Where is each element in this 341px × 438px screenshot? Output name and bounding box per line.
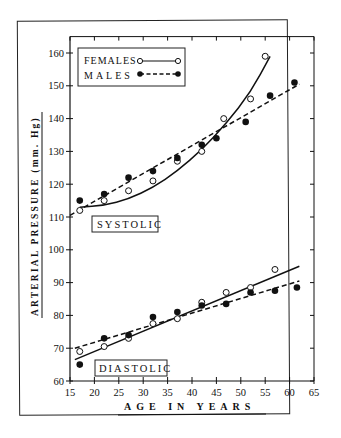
x-tick-label: 45 bbox=[211, 387, 222, 398]
x-tick-label: 20 bbox=[89, 387, 100, 398]
systolic-males-point bbox=[174, 155, 181, 162]
systolic-females-point bbox=[199, 148, 205, 154]
fit-lines bbox=[70, 56, 299, 359]
diastolic-males-point bbox=[198, 302, 205, 309]
diastolic-females-point bbox=[223, 289, 229, 295]
y-axis-title: ARTERIAL PRESSURE (mm. Hg) bbox=[30, 116, 41, 316]
diastolic-males-fit-line bbox=[75, 281, 299, 348]
diastolic-males-point bbox=[247, 289, 254, 296]
systolic-females-point bbox=[101, 198, 107, 204]
y-tick-label: 80 bbox=[54, 310, 65, 321]
legend-label-males: MALES bbox=[84, 70, 133, 81]
systolic-females-point bbox=[262, 53, 268, 59]
diastolic-females-point bbox=[174, 316, 180, 322]
y-tick-label: 140 bbox=[48, 113, 64, 124]
systolic-males-point bbox=[76, 197, 83, 204]
systolic-males-point bbox=[125, 174, 132, 181]
x-tick-label: 25 bbox=[114, 387, 125, 398]
y-tick-label: 100 bbox=[48, 244, 64, 255]
systolic-label: SYSTOLIC bbox=[92, 216, 163, 232]
y-tick-label: 70 bbox=[54, 343, 65, 354]
diastolic-males-point bbox=[174, 309, 181, 316]
diastolic-females-point bbox=[150, 321, 156, 327]
axes: 1520253035404550556065607080901001101201… bbox=[48, 37, 319, 398]
x-axis-title: AGE IN YEARS bbox=[124, 401, 255, 412]
legend-marker-males-left bbox=[137, 71, 143, 77]
x-tick-label: 15 bbox=[65, 387, 76, 398]
x-axis-title-underline bbox=[118, 414, 266, 415]
diastolic-females-point bbox=[77, 348, 83, 354]
diastolic-females-point bbox=[101, 344, 107, 350]
legend-label-females: FEMALES bbox=[84, 55, 137, 66]
diastolic-males-point bbox=[101, 335, 108, 342]
data-points bbox=[76, 53, 300, 368]
x-tick-label: 40 bbox=[187, 387, 198, 398]
systolic-males-point bbox=[150, 168, 157, 175]
systolic-females-point bbox=[126, 188, 132, 194]
y-tick-label: 110 bbox=[49, 212, 64, 223]
systolic-females-point bbox=[248, 96, 254, 102]
systolic-females-point bbox=[77, 207, 83, 213]
diastolic-males-point bbox=[150, 314, 157, 321]
y-tick-label: 90 bbox=[54, 277, 65, 288]
legend: FEMALES MALES bbox=[78, 48, 185, 86]
legend-marker-females-right bbox=[175, 58, 180, 63]
y-tick-label: 120 bbox=[48, 179, 64, 190]
chart: 1520253035404550556065607080901001101201… bbox=[0, 0, 341, 438]
systolic-males-point bbox=[291, 79, 298, 86]
y-tick-label: 150 bbox=[48, 80, 64, 91]
systolic-label-text: SYSTOLIC bbox=[97, 219, 163, 230]
y-tick-label: 130 bbox=[48, 146, 64, 157]
diastolic-label-text: DIASTOLIC bbox=[99, 363, 172, 374]
systolic-males-point bbox=[267, 92, 274, 99]
x-tick-label: 60 bbox=[284, 387, 295, 398]
legend-marker-females-left bbox=[137, 58, 142, 63]
y-tick-label: 60 bbox=[54, 376, 65, 387]
diastolic-males-point bbox=[125, 332, 132, 339]
systolic-males-point bbox=[213, 135, 220, 142]
systolic-females-point bbox=[150, 178, 156, 184]
x-tick-label: 50 bbox=[236, 387, 247, 398]
x-tick-label: 30 bbox=[138, 387, 149, 398]
x-tick-label: 55 bbox=[260, 387, 271, 398]
systolic-males-point bbox=[198, 142, 205, 149]
diastolic-males-point bbox=[223, 301, 230, 308]
diastolic-males-point bbox=[76, 361, 83, 368]
legend-marker-males-right bbox=[175, 71, 181, 77]
systolic-males-point bbox=[242, 119, 249, 126]
diastolic-males-point bbox=[294, 284, 301, 291]
diastolic-males-point bbox=[272, 288, 279, 295]
x-tick-label: 35 bbox=[162, 387, 173, 398]
systolic-males-point bbox=[101, 191, 108, 198]
y-tick-label: 160 bbox=[48, 48, 64, 59]
diastolic-females-fit-line bbox=[75, 266, 299, 359]
systolic-females-point bbox=[221, 116, 227, 122]
x-tick-label: 65 bbox=[309, 387, 320, 398]
diastolic-label: DIASTOLIC bbox=[95, 360, 172, 376]
diastolic-females-point bbox=[272, 266, 278, 272]
